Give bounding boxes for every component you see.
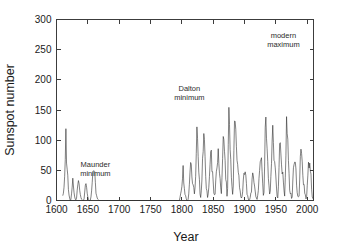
sunspot-chart-svg: 050100150200250300 160016501700175018001… xyxy=(0,0,338,251)
y-tick-label: 50 xyxy=(40,165,52,176)
y-tick-label: 150 xyxy=(35,105,52,116)
x-axis-title: Year xyxy=(173,230,198,244)
annotation-label: Maunderminimum xyxy=(80,160,111,178)
x-tick-label: 1650 xyxy=(77,204,100,215)
x-tick-label: 1600 xyxy=(45,204,68,215)
y-tick-label: 200 xyxy=(35,74,52,85)
x-tick-label: 1950 xyxy=(265,204,288,215)
x-tick-label: 1850 xyxy=(202,204,225,215)
x-tick-label: 1700 xyxy=(108,204,131,215)
x-tick-label: 2000 xyxy=(296,204,319,215)
annotation-label: Daltonminimum xyxy=(174,84,204,102)
x-tick-label: 1750 xyxy=(139,204,162,215)
x-tick-label: 1900 xyxy=(233,204,256,215)
y-tick-label: 300 xyxy=(35,14,52,25)
series-line xyxy=(63,107,314,200)
sunspot-chart-figure: 050100150200250300 160016501700175018001… xyxy=(0,0,338,251)
y-tick-label: 250 xyxy=(35,44,52,55)
y-axis-title: Sunspot number xyxy=(3,64,17,156)
chart-annotations: MaunderminimumDaltonminimummodernmaximum xyxy=(80,31,300,179)
y-tick-label: 100 xyxy=(35,135,52,146)
annotation-label: modernmaximum xyxy=(267,31,300,49)
sunspot-series xyxy=(63,107,314,200)
x-tick-label: 1800 xyxy=(171,204,194,215)
